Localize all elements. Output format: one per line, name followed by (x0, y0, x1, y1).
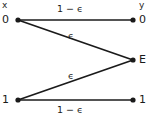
node-output-0 (130, 17, 135, 22)
edge-input1-outputE (18, 60, 133, 100)
channel-graph-canvas (0, 0, 150, 119)
edge-input0-outputE (18, 20, 133, 60)
edge-label-input0-outputE: ϵ (68, 31, 74, 41)
node-label-output-1: 1 (139, 94, 146, 105)
edge-label-input1-outputE: ϵ (68, 71, 74, 81)
node-input-1 (15, 97, 20, 102)
node-label-input-0: 0 (2, 14, 9, 25)
binary-erasure-channel-diagram: x y 0 1 0 E 1 1 − ϵ ϵ ϵ 1 − ϵ (0, 0, 150, 119)
node-label-output-erasure: E (139, 54, 146, 65)
output-axis-label: y (139, 1, 144, 10)
node-label-output-0: 0 (139, 14, 146, 25)
edge-label-input1-output1: 1 − ϵ (57, 105, 83, 115)
node-label-input-1: 1 (2, 94, 9, 105)
node-output-E (130, 57, 135, 62)
node-output-1 (130, 97, 135, 102)
edge-label-input0-output0: 1 − ϵ (57, 4, 83, 14)
input-axis-label: x (2, 1, 7, 10)
node-input-0 (15, 17, 20, 22)
